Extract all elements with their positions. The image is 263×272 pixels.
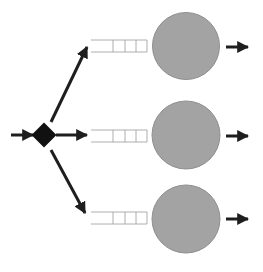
branch-upper <box>51 13 248 123</box>
router-diamond-icon <box>32 123 57 148</box>
queueing-diagram <box>0 0 263 272</box>
queue-upper <box>91 40 147 52</box>
branch-lower <box>51 150 248 253</box>
queue-middle <box>91 130 147 142</box>
queue-lower <box>91 212 147 224</box>
route-arrow-lower-icon <box>51 150 85 213</box>
server-upper <box>153 13 220 80</box>
route-arrow-upper-icon <box>51 47 87 122</box>
branch-middle <box>56 101 248 169</box>
server-lower <box>152 185 220 253</box>
server-middle <box>152 101 220 169</box>
